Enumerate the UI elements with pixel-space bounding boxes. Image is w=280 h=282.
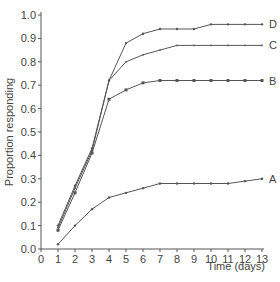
data-marker	[210, 45, 212, 47]
data-marker	[108, 98, 111, 101]
y-tick-label: 0.0	[21, 243, 36, 255]
data-marker	[261, 45, 263, 47]
y-tick-label: 0.9	[21, 32, 36, 44]
data-marker	[125, 88, 128, 91]
series-line	[58, 179, 262, 245]
x-tick-label: 6	[140, 253, 146, 265]
data-marker	[193, 45, 195, 47]
y-tick-label: 0.5	[21, 126, 36, 138]
x-tick-label: 0	[38, 253, 44, 265]
x-tick-label: 9	[191, 253, 197, 265]
y-tick-label: 1.0	[21, 9, 36, 21]
data-marker	[91, 208, 93, 210]
data-marker	[210, 79, 213, 82]
data-marker	[125, 192, 127, 194]
data-marker	[159, 182, 161, 184]
data-marker	[244, 45, 246, 47]
data-marker	[74, 187, 76, 189]
data-marker	[74, 191, 77, 194]
series-line	[58, 45, 262, 228]
x-tick-label: 8	[174, 253, 180, 265]
data-marker	[210, 23, 212, 25]
x-axis-label: Time (days)	[207, 260, 265, 272]
series-lines: DCBA	[57, 18, 278, 245]
data-marker	[108, 80, 110, 82]
y-tick-label: 0.6	[21, 103, 36, 115]
data-marker	[261, 79, 264, 82]
y-tick-label: 0.7	[21, 79, 36, 91]
data-marker	[193, 182, 195, 184]
y-tick-label: 0.2	[21, 196, 36, 208]
data-marker	[193, 28, 195, 30]
series-label: B	[269, 75, 276, 87]
y-tick-label: 0.4	[21, 149, 36, 161]
data-marker	[159, 49, 161, 51]
data-marker	[176, 28, 178, 30]
data-marker	[193, 79, 196, 82]
data-marker	[125, 61, 127, 63]
data-marker	[142, 187, 144, 189]
y-tick-label: 0.8	[21, 56, 36, 68]
data-marker	[244, 180, 246, 182]
series-label: A	[269, 173, 277, 185]
data-marker	[227, 45, 229, 47]
series-label: D	[269, 18, 277, 30]
data-marker	[244, 23, 246, 25]
data-marker	[176, 182, 178, 184]
data-marker	[159, 79, 162, 82]
data-marker	[159, 28, 161, 30]
data-marker	[227, 23, 229, 25]
data-marker	[142, 54, 144, 56]
data-marker	[142, 33, 144, 35]
data-marker	[176, 79, 179, 82]
data-marker	[108, 196, 110, 198]
series-a: A	[57, 173, 277, 246]
data-marker	[227, 79, 230, 82]
series-line	[58, 24, 262, 225]
data-marker	[210, 182, 212, 184]
y-tick-label: 0.1	[21, 220, 36, 232]
data-marker	[261, 178, 263, 180]
series-d: D	[57, 18, 277, 226]
y-axis-label: Proportion responding	[3, 78, 15, 186]
x-tick-label: 3	[89, 253, 95, 265]
x-tick-label: 4	[106, 253, 112, 265]
data-marker	[261, 23, 263, 25]
x-tick-label: 2	[72, 253, 78, 265]
data-marker	[74, 224, 76, 226]
data-marker	[125, 42, 127, 44]
data-marker	[57, 243, 59, 245]
line-chart: 0.00.10.20.30.40.50.60.70.80.91.00123456…	[0, 0, 280, 282]
y-tick-label: 0.3	[21, 173, 36, 185]
data-marker	[176, 45, 178, 47]
x-tick-label: 1	[55, 253, 61, 265]
data-marker	[227, 182, 229, 184]
x-tick-label: 7	[157, 253, 163, 265]
data-marker	[142, 81, 145, 84]
data-marker	[57, 229, 60, 232]
data-marker	[91, 152, 94, 155]
series-c: C	[57, 39, 277, 228]
data-marker	[244, 79, 247, 82]
series-label: C	[269, 39, 277, 51]
x-tick-label: 5	[123, 253, 129, 265]
